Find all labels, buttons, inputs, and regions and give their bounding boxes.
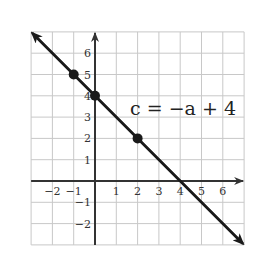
x-tick-label: 1 [113, 185, 120, 198]
y-tick-label: −1 [75, 196, 91, 209]
x-tick-label: 5 [198, 185, 205, 198]
x-tick-label: 4 [177, 185, 184, 198]
x-tick-label: 2 [134, 185, 141, 198]
y-tick-label: −2 [75, 218, 91, 231]
x-tick-label: 3 [155, 185, 162, 198]
x-tick-label: −2 [44, 185, 60, 198]
x-tick-label: 6 [219, 185, 226, 198]
linear-function-graph: −2−1123456−2−1123456 c = −a + 4 [0, 0, 265, 260]
data-point [69, 70, 79, 80]
y-tick-label: 3 [84, 111, 91, 124]
y-tick-label: 2 [84, 132, 91, 145]
y-tick-label: 1 [84, 154, 91, 167]
data-point [90, 91, 100, 101]
data-point [133, 133, 143, 143]
y-tick-label: 5 [84, 69, 91, 82]
y-tick-label: 6 [84, 47, 91, 60]
equation-label: c = −a + 4 [130, 97, 236, 119]
